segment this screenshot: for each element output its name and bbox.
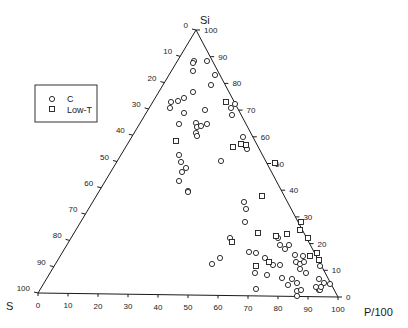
data-point-square-icon xyxy=(299,220,304,225)
data-point-square-icon xyxy=(244,143,249,148)
right-tick-label: 20 xyxy=(318,240,327,249)
data-point-circle-icon xyxy=(313,284,318,289)
left-tick-label: 40 xyxy=(116,126,125,135)
bottom-tick-label: 60 xyxy=(214,303,223,312)
legend-circle-icon xyxy=(49,96,54,101)
data-point-circle-icon xyxy=(175,98,180,103)
left-tick-label: 60 xyxy=(84,179,93,188)
data-point-circle-icon xyxy=(292,252,297,257)
data-point-square-icon xyxy=(308,254,313,259)
data-point-circle-icon xyxy=(179,169,184,174)
left-tick-label: 70 xyxy=(68,205,77,214)
data-point-circle-icon xyxy=(176,121,181,126)
bottom-tick-label: 10 xyxy=(64,301,73,310)
bottom-tick-label: 40 xyxy=(154,303,163,312)
data-point-circle-icon xyxy=(183,165,188,170)
data-point-circle-icon xyxy=(289,276,294,281)
data-point-circle-icon xyxy=(240,134,245,139)
data-point-circle-icon xyxy=(194,133,199,138)
data-point-circle-icon xyxy=(229,112,234,117)
right-tick-label: 10 xyxy=(332,266,341,275)
data-point-circle-icon xyxy=(242,219,247,224)
data-point-circle-icon xyxy=(228,105,233,110)
bottom-tick-label: 90 xyxy=(304,305,313,314)
data-point-square-icon xyxy=(298,228,303,233)
data-point-square-icon xyxy=(315,251,320,256)
data-point-circle-icon xyxy=(190,68,195,73)
data-point-circle-icon xyxy=(202,107,207,112)
data-point-square-icon xyxy=(174,139,179,144)
data-point-circle-icon xyxy=(286,242,291,247)
data-point-circle-icon xyxy=(294,293,299,298)
bottom-tick-label: 50 xyxy=(184,303,193,312)
data-point-circle-icon xyxy=(232,101,237,106)
data-point-circle-icon xyxy=(181,110,186,115)
bottom-tick-label: 0 xyxy=(36,301,41,310)
data-points-c xyxy=(167,58,332,298)
data-point-square-icon xyxy=(260,194,265,199)
data-point-circle-icon xyxy=(185,189,190,194)
bottom-tick-label: 100 xyxy=(331,305,345,314)
right-tick-label: 40 xyxy=(289,186,298,195)
data-point-square-icon xyxy=(224,100,229,105)
data-point-circle-icon xyxy=(218,158,223,163)
left-tick-label: 30 xyxy=(132,100,141,109)
data-point-square-icon xyxy=(239,142,244,147)
data-point-circle-icon xyxy=(303,270,308,275)
left-axis-ticks: 0102030405060708090100 xyxy=(17,21,196,293)
data-point-square-icon xyxy=(285,232,290,237)
data-point-square-icon xyxy=(274,234,279,239)
data-point-circle-icon xyxy=(318,284,323,289)
vertex-label-si: Si xyxy=(200,14,210,26)
data-point-square-icon xyxy=(273,161,278,166)
right-tick-label: 70 xyxy=(247,106,256,115)
data-point-circle-icon xyxy=(178,159,183,164)
legend-label-c: C xyxy=(67,94,74,104)
legend-label-low-t: Low-T xyxy=(67,105,93,115)
data-point-square-icon xyxy=(317,258,322,263)
left-tick-label: 50 xyxy=(100,153,109,162)
data-point-circle-icon xyxy=(208,82,213,87)
data-point-circle-icon xyxy=(279,275,284,280)
data-point-circle-icon xyxy=(301,259,306,264)
data-point-circle-icon xyxy=(327,281,332,286)
data-point-circle-icon xyxy=(176,178,181,183)
data-point-circle-icon xyxy=(277,242,282,247)
data-point-circle-icon xyxy=(209,261,214,266)
data-point-circle-icon xyxy=(298,287,303,292)
data-point-circle-icon xyxy=(241,199,246,204)
data-point-circle-icon xyxy=(190,60,195,65)
left-tick-label: 90 xyxy=(37,258,46,267)
data-point-circle-icon xyxy=(300,253,305,258)
right-tick-label: 0 xyxy=(346,293,351,302)
right-tick-label: 100 xyxy=(204,26,218,35)
data-point-square-icon xyxy=(254,264,259,269)
data-point-circle-icon xyxy=(294,280,299,285)
legend-square-icon xyxy=(50,107,55,112)
data-point-circle-icon xyxy=(282,246,287,251)
data-point-circle-icon xyxy=(243,206,248,211)
left-tick-label: 10 xyxy=(163,47,172,56)
left-tick-label: 80 xyxy=(53,231,62,240)
data-point-circle-icon xyxy=(297,266,302,271)
data-point-circle-icon xyxy=(252,270,257,275)
vertex-label-p: P/100 xyxy=(364,306,393,318)
vertex-label-s: S xyxy=(6,300,13,312)
data-point-circle-icon xyxy=(167,105,172,110)
data-point-circle-icon xyxy=(212,72,217,77)
data-point-square-icon xyxy=(267,260,272,265)
right-tick-label: 30 xyxy=(303,213,312,222)
data-point-circle-icon xyxy=(204,121,209,126)
bottom-tick-label: 20 xyxy=(94,302,103,311)
data-point-circle-icon xyxy=(285,282,290,287)
data-point-circle-icon xyxy=(317,263,322,268)
left-tick-label: 0 xyxy=(184,21,189,30)
left-tick-label: 100 xyxy=(17,284,31,293)
right-tick-label: 80 xyxy=(232,79,241,88)
data-point-circle-icon xyxy=(264,272,269,277)
data-point-square-icon xyxy=(306,236,311,241)
data-point-circle-icon xyxy=(168,99,173,104)
legend: C Low-T xyxy=(35,85,97,122)
left-tick-label: 20 xyxy=(147,74,156,83)
data-point-circle-icon xyxy=(316,276,321,281)
